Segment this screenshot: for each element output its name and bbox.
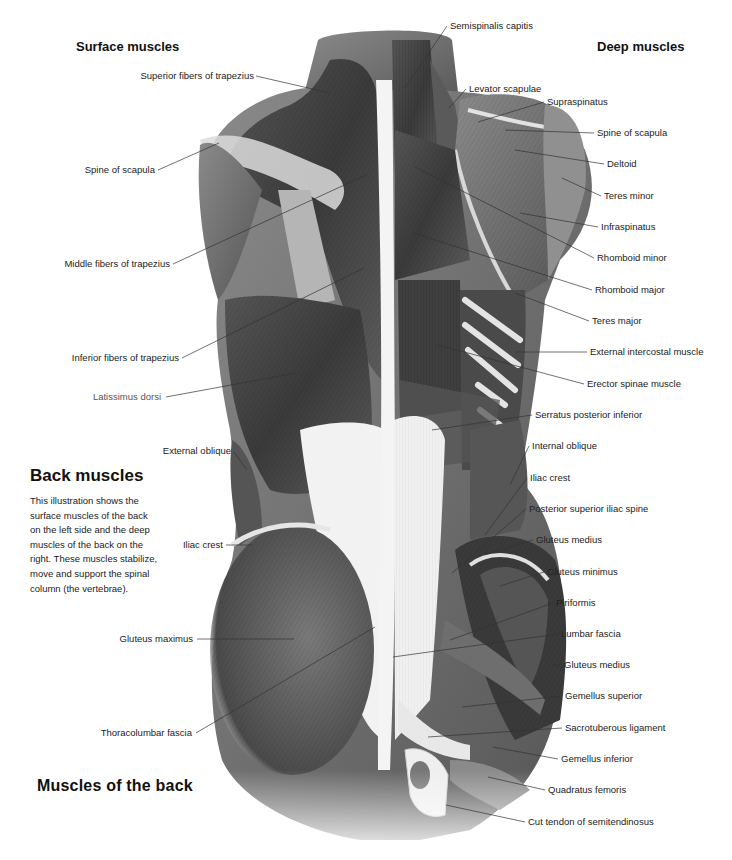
label-latissimus-dorsi: Latissimus dorsi [93, 391, 161, 403]
label-infraspinatus: Infraspinatus [601, 221, 655, 233]
label-rhomboid-major: Rhomboid major [595, 284, 665, 296]
info-panel-body: This illustration shows the surface musc… [30, 494, 160, 596]
label-thoracolumbar-fascia: Thoracolumbar fascia [101, 727, 192, 739]
label-external-oblique: External oblique [163, 445, 231, 457]
label-lumbar-fascia: Lumbar fascia [561, 628, 621, 640]
right-internal-oblique [470, 420, 528, 540]
label-teres-major: Teres major [592, 315, 642, 327]
label-deltoid: Deltoid [607, 158, 637, 170]
label-quadratus-femoris: Quadratus femoris [548, 784, 626, 796]
label-spine-of-scapula: Spine of scapula [85, 164, 155, 176]
label-superior-fibers-of-trapezius: Superior fibers of trapezius [140, 70, 254, 82]
surface-muscles-heading: Surface muscles [76, 39, 179, 54]
label-middle-fibers-of-trapezius: Middle fibers of trapezius [64, 258, 170, 270]
deep-muscles-heading: Deep muscles [597, 39, 684, 54]
label-supraspinatus: Supraspinatus [547, 96, 608, 108]
label-erector-spinae-muscle: Erector spinae muscle [587, 378, 681, 390]
label-spine-of-scapula: Spine of scapula [597, 127, 667, 139]
label-gemellus-inferior: Gemellus inferior [561, 753, 633, 765]
label-gluteus-medius: Gluteus medius [564, 659, 630, 671]
label-gluteus-minimus: Gluteus minimus [547, 566, 618, 578]
label-rhomboid-minor: Rhomboid minor [597, 252, 667, 264]
label-posterior-superior-iliac-spine: Posterior superior iliac spine [529, 503, 648, 515]
label-gemellus-superior: Gemellus superior [565, 690, 642, 702]
label-piriformis: Piriformis [556, 597, 596, 609]
label-semispinalis-capitis: Semispinalis capitis [450, 20, 533, 32]
label-gluteus-medius: Gluteus medius [536, 534, 602, 546]
label-internal-oblique: Internal oblique [532, 440, 597, 452]
label-iliac-crest: Iliac crest [530, 472, 570, 484]
label-cut-tendon-of-semitendinosus: Cut tendon of semitendinosus [528, 816, 654, 828]
label-external-intercostal-muscle: External intercostal muscle [590, 346, 704, 358]
label-levator-scapulae: Levator scapulae [469, 83, 541, 95]
label-gluteus-maximus: Gluteus maximus [120, 633, 193, 645]
figure-caption: Muscles of the back [37, 777, 193, 795]
label-teres-minor: Teres minor [604, 190, 654, 202]
info-panel-title: Back muscles [30, 466, 143, 486]
label-serratus-posterior-inferior: Serratus posterior inferior [535, 409, 642, 421]
label-inferior-fibers-of-trapezius: Inferior fibers of trapezius [72, 352, 179, 364]
label-sacrotuberous-ligament: Sacrotuberous ligament [565, 722, 665, 734]
label-iliac-crest: Iliac crest [183, 539, 223, 551]
